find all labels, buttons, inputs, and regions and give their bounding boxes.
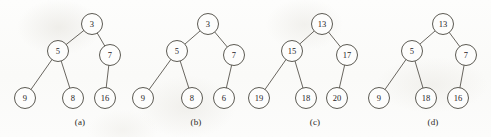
tree-edge bbox=[460, 65, 464, 87]
node-value-label: 5 bbox=[410, 46, 414, 56]
tree-edge bbox=[449, 32, 459, 46]
figure-caption-d: (d) bbox=[427, 117, 438, 127]
tree-node: 5 bbox=[402, 41, 423, 62]
tree-edge bbox=[415, 61, 423, 88]
figure-caption-b: (b) bbox=[190, 117, 201, 127]
tree-graphic: 135791816 bbox=[0, 0, 491, 137]
tree-edge bbox=[385, 60, 406, 90]
tree-node: 7 bbox=[456, 45, 477, 66]
binary-tree-figure-panel: 3579816357986131517191820135791816 (a)(b… bbox=[0, 0, 491, 137]
figure-caption-c: (c) bbox=[310, 117, 321, 127]
figure-caption-a: (a) bbox=[75, 117, 86, 127]
node-group: 135791816 bbox=[369, 14, 477, 109]
node-value-label: 18 bbox=[422, 93, 431, 103]
node-value-label: 13 bbox=[439, 19, 448, 29]
tree-node: 9 bbox=[369, 88, 390, 109]
node-value-label: 9 bbox=[377, 93, 381, 103]
edge-group bbox=[385, 31, 464, 90]
tree-d: 135791816 bbox=[0, 0, 491, 137]
tree-edge bbox=[420, 31, 435, 44]
tree-node: 16 bbox=[448, 88, 469, 109]
node-value-label: 7 bbox=[464, 50, 468, 60]
node-value-label: 16 bbox=[454, 93, 463, 103]
tree-node: 13 bbox=[433, 14, 454, 35]
tree-node: 18 bbox=[416, 88, 437, 109]
